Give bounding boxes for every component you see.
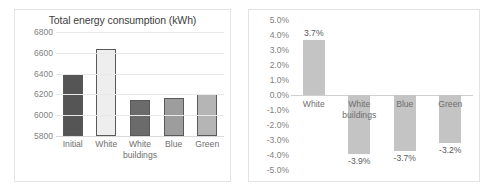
figure-container: Total energy consumption (kWh) 580060006… (0, 0, 492, 191)
right-x-label-line2: buildings (342, 110, 376, 121)
right-x-label: Green (438, 99, 462, 110)
left-y-tick-label: 6800 (17, 27, 53, 37)
right-bar-slot: 3.7%White (291, 20, 337, 170)
left-x-label-line1: Green (190, 139, 224, 150)
left-x-label-line1: White (123, 139, 157, 150)
left-gridline (56, 53, 224, 54)
right-y-tick-label: 2.0% (253, 60, 289, 70)
left-bar (164, 98, 184, 136)
left-bar-slot (123, 32, 157, 136)
left-chart-panel: Total energy consumption (kWh) 580060006… (14, 9, 231, 182)
left-bar (63, 74, 83, 136)
left-y-tick-label: 6000 (17, 110, 53, 120)
right-x-label: White (303, 99, 325, 110)
right-x-label-line1: White (342, 99, 376, 110)
left-x-label: Whitebuildings (123, 139, 157, 161)
right-bar-slot: -3.2%Green (428, 20, 474, 170)
right-bar-value-label: -3.2% (439, 145, 461, 155)
left-y-axis: 580060006200640066006800 (15, 32, 53, 136)
left-x-label-line1: Blue (157, 139, 191, 150)
left-x-label-line2: buildings (123, 150, 157, 161)
right-bar (303, 40, 325, 96)
left-gridline (56, 115, 224, 116)
left-gridline (56, 74, 224, 75)
left-x-label-line1: White (90, 139, 124, 150)
left-x-label-line1: Initial (56, 139, 90, 150)
right-y-tick-label: 4.0% (253, 30, 289, 40)
left-bar-slot (90, 32, 124, 136)
right-bar-slot: -3.7%Blue (382, 20, 428, 170)
left-x-label: White (90, 139, 124, 161)
right-y-axis: 5.0%4.0%3.0%2.0%1.0%0.0%-1.0%-2.0%-3.0%-… (249, 20, 289, 170)
left-bar (130, 100, 150, 136)
right-x-label-line1: Blue (396, 99, 413, 110)
right-bar-value-label: 3.7% (304, 28, 324, 38)
right-chart-panel: 5.0%4.0%3.0%2.0%1.0%0.0%-1.0%-2.0%-3.0%-… (248, 9, 480, 182)
left-bar-slot (56, 32, 90, 136)
right-y-tick-label: 5.0% (253, 15, 289, 25)
right-y-tick-label: -3.0% (253, 135, 289, 145)
right-plot-area: 3.7%White-3.9%Whitebuildings-3.7%Blue-3.… (291, 20, 473, 170)
right-y-tick-label: -4.0% (253, 150, 289, 160)
left-x-axis-labels: InitialWhiteWhitebuildingsBlueGreen (56, 139, 224, 161)
left-plot-area (56, 32, 224, 136)
left-bar-slot (190, 32, 224, 136)
right-bar-value-label: -3.9% (348, 156, 370, 166)
left-gridline (56, 136, 224, 137)
right-y-tick-label: 1.0% (253, 75, 289, 85)
right-y-tick-label: -1.0% (253, 105, 289, 115)
left-bar-slot (157, 32, 191, 136)
left-y-tick-label: 6600 (17, 48, 53, 58)
right-x-label-line1: Green (438, 99, 462, 110)
right-bar-slot: -3.9%Whitebuildings (337, 20, 383, 170)
left-gridline (56, 32, 224, 33)
right-y-tick-label: 3.0% (253, 45, 289, 55)
left-bars-row (56, 32, 224, 136)
left-y-tick-label: 6200 (17, 89, 53, 99)
left-x-label: Blue (157, 139, 191, 161)
left-y-tick-label: 5800 (17, 131, 53, 141)
right-y-tick-label: -5.0% (253, 165, 289, 175)
left-bar (96, 49, 116, 136)
right-y-tick-label: -2.0% (253, 120, 289, 130)
left-x-label: Initial (56, 139, 90, 161)
left-y-tick-label: 6400 (17, 69, 53, 79)
right-x-label: Whitebuildings (342, 99, 376, 121)
left-x-label: Green (190, 139, 224, 161)
left-chart-title: Total energy consumption (kWh) (15, 14, 230, 26)
right-y-tick-label: 0.0% (253, 90, 289, 100)
left-gridline (56, 94, 224, 95)
right-x-label: Blue (396, 99, 413, 110)
right-x-label-line1: White (303, 99, 325, 110)
right-bar-value-label: -3.7% (394, 153, 416, 163)
